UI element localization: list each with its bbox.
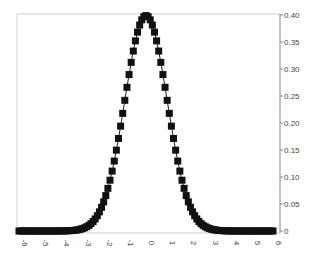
x-tick-label: 1 — [168, 241, 177, 246]
square-marker — [117, 123, 124, 130]
x-tick-label: 2 — [189, 241, 198, 246]
square-marker — [128, 59, 135, 66]
square-marker — [104, 185, 111, 192]
square-marker — [153, 37, 160, 44]
x-tick-label: -6 — [20, 239, 29, 247]
square-marker — [176, 168, 183, 175]
x-tick-label: 6 — [274, 241, 283, 246]
y-tick-label: 0.20 — [284, 119, 300, 128]
x-tick-label: 0 — [147, 241, 156, 246]
square-marker — [172, 147, 179, 154]
y-tick-label: 0.10 — [284, 173, 300, 182]
square-marker — [119, 110, 126, 117]
square-marker — [162, 84, 169, 91]
x-tick-label: 4 — [232, 241, 241, 246]
plot-frame — [17, 14, 280, 233]
square-marker — [166, 110, 173, 117]
square-marker — [178, 177, 185, 184]
square-marker — [174, 158, 181, 165]
chart: 00.050.100.150.200.250.300.350.40 -6-5-4… — [0, 0, 311, 255]
square-marker — [132, 37, 139, 44]
square-marker — [121, 97, 128, 104]
x-tick-label: -3 — [84, 239, 93, 247]
square-marker — [115, 135, 122, 142]
x-tick-label: -2 — [105, 239, 114, 247]
square-marker — [159, 71, 166, 78]
data-line — [19, 16, 273, 231]
square-marker — [109, 168, 116, 175]
square-marker — [183, 192, 190, 199]
square-marker — [126, 71, 133, 78]
y-tick-label: 0.40 — [284, 11, 300, 20]
x-tick-label: -5 — [41, 239, 50, 247]
square-marker — [134, 29, 141, 36]
x-tick-label: -1 — [126, 239, 135, 247]
square-marker — [270, 228, 277, 235]
y-tick-label: 0.35 — [284, 38, 300, 47]
square-marker — [113, 147, 120, 154]
x-axis: -6-5-4-3-2-10123456 — [20, 239, 283, 247]
x-tick-label: 3 — [211, 241, 220, 246]
y-tick-label: 0.30 — [284, 65, 300, 74]
square-marker — [107, 177, 114, 184]
square-marker — [170, 135, 177, 142]
square-marker — [164, 97, 171, 104]
square-marker — [100, 198, 107, 205]
square-marker — [149, 22, 156, 29]
square-marker — [123, 84, 130, 91]
y-tick-label: 0.15 — [284, 146, 300, 155]
square-marker — [157, 59, 164, 66]
square-marker — [151, 29, 158, 36]
y-tick-label: 0.25 — [284, 92, 300, 101]
y-tick-label: 0.05 — [284, 200, 300, 209]
x-tick-label: -4 — [62, 239, 71, 247]
y-tick-label: 0 — [284, 227, 289, 236]
data-markers — [16, 12, 277, 234]
square-marker — [155, 48, 162, 55]
x-tick-label: 5 — [253, 241, 262, 246]
square-marker — [111, 158, 118, 165]
square-marker — [130, 48, 137, 55]
y-axis: 00.050.100.150.200.250.300.350.40 — [280, 11, 300, 236]
square-marker — [102, 192, 109, 199]
square-marker — [168, 123, 175, 130]
square-marker — [181, 185, 188, 192]
